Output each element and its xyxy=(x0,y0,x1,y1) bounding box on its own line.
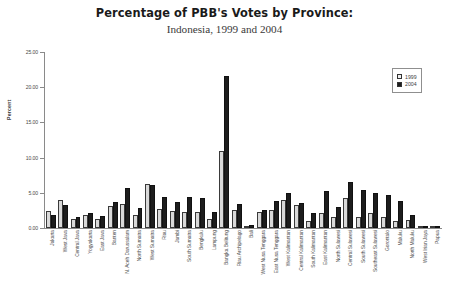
y-tick-mark xyxy=(40,52,44,53)
x-tick-label: Papua xyxy=(435,230,440,244)
bar-group xyxy=(120,52,132,228)
x-tick-label: North Maluku xyxy=(410,230,415,258)
y-tick-mark xyxy=(40,87,44,88)
x-tick-label: Central Java xyxy=(75,230,80,257)
bar-2004 xyxy=(237,204,242,228)
bar-group xyxy=(257,52,269,228)
x-tick-label: West Sumatra xyxy=(150,230,155,260)
x-tick-label: Central Sulawesi xyxy=(348,230,353,266)
x-tick-label: East Nusa Tenggara xyxy=(274,230,279,273)
bar-group xyxy=(195,52,207,228)
x-tick-label: N. Aceh Darussalam xyxy=(125,230,130,274)
legend-swatch-1999-icon xyxy=(397,74,402,79)
legend-swatch-2004-icon xyxy=(397,82,402,87)
y-tick-mark xyxy=(40,158,44,159)
x-tick-label: South Sumatra xyxy=(187,230,192,262)
bar-2004 xyxy=(410,215,415,228)
bar-group xyxy=(306,52,318,228)
bar-group xyxy=(145,52,157,228)
x-tick-label: South Sulawesi xyxy=(361,230,366,263)
bar-group xyxy=(71,52,83,228)
bar-2004 xyxy=(435,226,440,228)
bar-2004 xyxy=(311,213,316,228)
bar-2004 xyxy=(262,210,267,228)
chart-legend: 1999 2004 xyxy=(392,68,422,93)
bar-2004 xyxy=(162,197,167,228)
x-tick-label: Gorontalo xyxy=(385,230,390,251)
bar-2004 xyxy=(286,193,291,228)
bar-2004 xyxy=(373,193,378,228)
chart-figure: Percentage of PBB's Votes by Province: I… xyxy=(0,0,449,302)
legend-label-2004: 2004 xyxy=(405,81,417,87)
bar-group xyxy=(269,52,281,228)
x-tick-label: East Java xyxy=(100,230,105,251)
x-tick-label: Riau xyxy=(162,230,167,240)
bar-2004 xyxy=(224,76,229,228)
bar-2004 xyxy=(299,203,304,228)
bar-2004 xyxy=(100,216,105,228)
bar-2004 xyxy=(125,188,130,228)
bar-group xyxy=(108,52,120,228)
bar-group xyxy=(170,52,182,228)
x-tick-label: North Sulawesi xyxy=(336,230,341,262)
y-tick-mark xyxy=(40,193,44,194)
bar-group xyxy=(343,52,355,228)
bar-2004 xyxy=(138,208,143,228)
bar-group xyxy=(95,52,107,228)
bar-group xyxy=(83,52,95,228)
bar-group xyxy=(281,52,293,228)
bar-2004 xyxy=(51,215,56,228)
bar-2004 xyxy=(423,226,428,228)
bar-2004 xyxy=(175,202,180,228)
x-tick-label: West Java xyxy=(63,230,68,252)
y-tick-label: 20.00 xyxy=(4,84,38,90)
bar-2004 xyxy=(361,190,366,228)
bar-2004 xyxy=(324,191,329,228)
chart-title: Percentage of PBB's Votes by Province: xyxy=(0,6,449,20)
bar-2004 xyxy=(348,182,353,228)
y-tick-mark xyxy=(40,122,44,123)
y-tick-label: 25.00 xyxy=(4,49,38,55)
bar-group xyxy=(356,52,368,228)
x-tick-label: Jakarta xyxy=(50,230,55,246)
bar-2004 xyxy=(212,212,217,228)
x-tick-label: Lampung xyxy=(212,230,217,250)
bar-group xyxy=(244,52,256,228)
x-tick-label: East Kalimantan xyxy=(323,230,328,265)
x-tick-label: Yogyakarta xyxy=(88,230,93,254)
y-tick-label: 0.00 xyxy=(4,225,38,231)
x-tick-label: Bangka Belitung xyxy=(224,230,229,265)
bar-group xyxy=(133,52,145,228)
x-tick-label: Central Kalimantan xyxy=(299,230,304,271)
bar-group xyxy=(368,52,380,228)
bar-group xyxy=(182,52,194,228)
bar-group xyxy=(58,52,70,228)
y-tick-label: 5.00 xyxy=(4,190,38,196)
x-tick-label: West Kalimantan xyxy=(286,230,291,266)
bar-2004 xyxy=(200,198,205,228)
plot-area: Percent 0.005.0010.0015.0020.0025.00 xyxy=(44,52,442,228)
x-tick-label: Banten xyxy=(112,230,117,245)
legend-label-1999: 1999 xyxy=(405,74,417,80)
x-tick-label: North Sumatra xyxy=(137,230,142,261)
bar-series-container xyxy=(45,52,442,228)
x-tick-label: Southeast Sulawesi xyxy=(373,230,378,272)
x-tick-label: West Nusa Tenggara xyxy=(261,230,266,275)
x-tick-label: South Kalimantan xyxy=(311,230,316,268)
bar-group xyxy=(331,52,343,228)
bar-group xyxy=(430,52,442,228)
y-tick-label: 15.00 xyxy=(4,119,38,125)
y-tick-label: 10.00 xyxy=(4,155,38,161)
bar-group xyxy=(294,52,306,228)
bar-2004 xyxy=(249,225,254,228)
y-tick-mark xyxy=(40,228,44,229)
x-tick-label: West Irian Jaya xyxy=(423,230,428,263)
bar-group xyxy=(319,52,331,228)
bar-2004 xyxy=(76,217,81,228)
bar-2004 xyxy=(63,205,68,228)
bar-2004 xyxy=(398,201,403,228)
y-axis-title: Percent xyxy=(6,100,12,120)
bar-2004 xyxy=(113,202,118,228)
x-tick-label: Jambi xyxy=(175,230,180,243)
bar-group xyxy=(157,52,169,228)
